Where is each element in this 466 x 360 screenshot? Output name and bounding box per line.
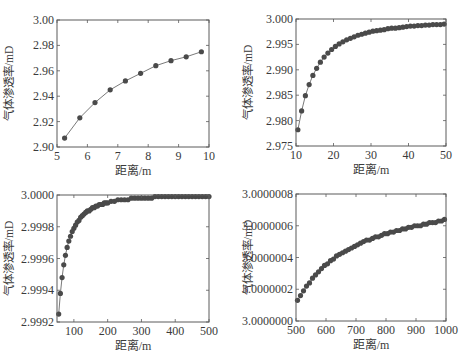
y-tick-label: 2.985 — [266, 88, 293, 102]
data-point — [168, 58, 173, 63]
x-tick-label: 400 — [166, 324, 184, 338]
y-tick-label: 3.000 — [266, 12, 293, 26]
y-axis-label: 气体渗透率/mD — [2, 46, 15, 121]
x-tick-label: 40 — [403, 148, 415, 162]
chart-panel-bottom-left: 1002003004005002.99922.99942.99962.99983… — [2, 188, 218, 353]
y-tick-label: 2.9992 — [21, 315, 54, 329]
y-tick-label: 2.9994 — [21, 283, 54, 297]
data-point — [298, 293, 303, 298]
x-axis-label: 距离/m — [115, 338, 152, 353]
data-point — [108, 87, 113, 92]
data-point — [66, 238, 71, 243]
x-tick-label: 8 — [145, 149, 151, 163]
plot-frame — [57, 195, 209, 322]
data-point — [322, 55, 327, 60]
data-point — [318, 60, 323, 65]
y-tick-label: 2.995 — [266, 37, 293, 51]
y-tick-label: 3.00 — [33, 13, 54, 27]
plot-frame — [57, 20, 209, 147]
y-tick-label: 2.980 — [266, 114, 293, 128]
series-markers — [295, 21, 446, 132]
y-tick-label: 2.9998 — [21, 220, 54, 234]
x-tick-label: 10 — [203, 149, 215, 163]
data-point — [310, 73, 315, 78]
x-tick-label: 900 — [407, 323, 425, 337]
x-axis-label: 距离/m — [353, 162, 390, 177]
x-tick-label: 5 — [54, 149, 60, 163]
x-axis-label: 距离/m — [115, 163, 152, 178]
y-tick-label: 3.0000000 — [242, 314, 293, 328]
data-point — [61, 262, 66, 267]
y-tick-label: 2.990 — [266, 63, 293, 77]
chart-panel-top-left: 56789102.902.922.942.962.983.00距离/m气体渗透率… — [2, 13, 215, 178]
y-axis-label: 气体渗透率/mD — [241, 220, 254, 295]
data-point — [123, 78, 128, 83]
figure-canvas: 56789102.902.922.942.962.983.00距离/m气体渗透率… — [0, 0, 466, 360]
x-tick-label: 30 — [365, 148, 377, 162]
series-markers — [295, 217, 447, 303]
data-point — [92, 100, 97, 105]
x-tick-label: 7 — [115, 149, 121, 163]
x-tick-label: 100 — [65, 324, 83, 338]
y-tick-label: 2.975 — [266, 139, 293, 153]
chart-panel-top-right: 10203040502.9752.9802.9852.9902.9953.000… — [241, 12, 452, 177]
data-point — [307, 82, 312, 87]
x-tick-label: 600 — [317, 323, 335, 337]
y-tick-label: 2.96 — [33, 64, 54, 78]
data-point — [184, 54, 189, 59]
x-tick-label: 200 — [99, 324, 117, 338]
series-markers — [62, 49, 204, 141]
chart-panel-bottom-right: 50060070080090010003.00000003.00000023.0… — [241, 187, 458, 352]
x-tick-label: 300 — [132, 324, 150, 338]
y-tick-label: 2.92 — [33, 115, 54, 129]
data-point — [301, 288, 306, 293]
x-tick-label: 50 — [440, 148, 452, 162]
data-point — [68, 234, 73, 239]
data-point — [303, 93, 308, 98]
y-tick-label: 2.94 — [33, 89, 54, 103]
y-tick-label: 2.9996 — [21, 252, 54, 266]
x-tick-label: 1000 — [434, 323, 458, 337]
y-tick-label: 3.0000008 — [242, 187, 293, 201]
x-tick-label: 800 — [377, 323, 395, 337]
x-tick-label: 9 — [176, 149, 182, 163]
data-point — [153, 63, 158, 68]
series-line — [298, 219, 445, 300]
data-point — [59, 275, 64, 280]
x-axis-label: 距离/m — [353, 337, 390, 352]
plot-frame — [296, 194, 446, 321]
x-tick-label: 700 — [347, 323, 365, 337]
x-tick-label: 6 — [84, 149, 90, 163]
figure: 56789102.902.922.942.962.983.00距离/m气体渗透率… — [0, 0, 466, 360]
y-axis-label: 气体渗透率/mD — [241, 45, 254, 120]
y-tick-label: 2.98 — [33, 38, 54, 52]
y-axis-label: 气体渗透率/mD — [2, 221, 15, 296]
data-point — [65, 245, 70, 250]
data-point — [307, 280, 312, 285]
x-tick-label: 500 — [200, 324, 218, 338]
x-tick-label: 20 — [328, 148, 340, 162]
data-point — [62, 136, 67, 141]
plot-frame — [296, 19, 446, 146]
data-point — [58, 291, 63, 296]
data-point — [314, 66, 319, 71]
data-point — [63, 253, 68, 258]
y-tick-label: 2.90 — [33, 140, 54, 154]
data-point — [199, 49, 204, 54]
series-markers — [56, 194, 212, 317]
data-point — [138, 71, 143, 76]
series-line — [298, 24, 444, 130]
series-line — [65, 52, 202, 138]
data-point — [77, 115, 82, 120]
y-tick-label: 3.0000 — [21, 188, 54, 202]
data-point — [299, 108, 304, 113]
